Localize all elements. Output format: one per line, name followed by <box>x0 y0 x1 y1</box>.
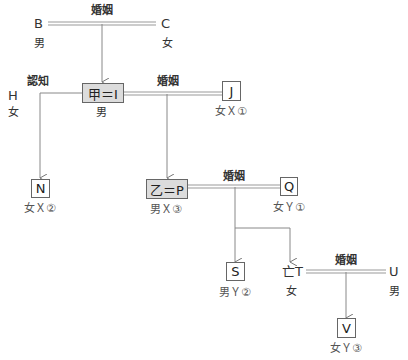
person-t: 亡T <box>282 265 303 278</box>
person-q-box: Q <box>280 177 298 196</box>
person-c: C <box>161 17 170 30</box>
marriage-label-p-q: 婚姻 <box>223 171 245 182</box>
person-b: B <box>34 17 43 30</box>
acknowledgment-line-to-n <box>40 93 82 178</box>
marriage-label-i-j: 婚姻 <box>157 76 179 87</box>
person-s-tag: 男Ｙ② <box>219 287 251 298</box>
person-u-gender: 男 <box>389 286 400 297</box>
person-t-gender: 女 <box>286 286 297 297</box>
acknowledgment-label: 認知 <box>27 76 49 87</box>
person-h-gender: 女 <box>8 107 19 118</box>
relationship-lines <box>0 0 408 360</box>
person-i-gender: 男 <box>96 107 107 118</box>
person-q-tag: 女Ｙ① <box>273 202 305 213</box>
person-j-tag: 女Ｘ① <box>215 106 247 117</box>
person-i-box: 甲＝I <box>82 83 124 103</box>
person-b-gender: 男 <box>34 38 45 49</box>
person-n-tag: 女Ｘ② <box>24 203 56 214</box>
person-j-box: J <box>222 81 241 101</box>
person-v-tag: 女Ｙ③ <box>330 343 362 354</box>
marriage-line-i-j <box>124 92 222 95</box>
person-v-box: V <box>337 318 356 338</box>
descent-line-to-t <box>235 228 290 262</box>
marriage-line-p-q <box>188 185 280 188</box>
person-p-tag: 男Ｘ③ <box>150 204 182 215</box>
person-u: U <box>389 265 399 278</box>
person-h: H <box>8 89 18 102</box>
person-n-box: N <box>31 179 50 198</box>
marriage-label-t-u: 婚姻 <box>335 255 357 266</box>
person-s-box: S <box>226 262 245 281</box>
marriage-label-b-c: 婚姻 <box>91 5 113 16</box>
person-c-gender: 女 <box>162 38 173 49</box>
person-p-box: 乙＝P <box>146 179 188 199</box>
